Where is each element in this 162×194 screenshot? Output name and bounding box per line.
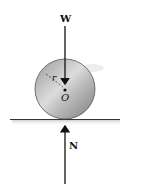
weight-label: W <box>59 13 72 24</box>
ground-shadow <box>12 120 120 126</box>
radius-label: r <box>52 73 57 83</box>
center-label: O <box>61 92 69 103</box>
free-body-diagram: r O W N <box>0 0 162 194</box>
normal-label: N <box>69 140 78 151</box>
